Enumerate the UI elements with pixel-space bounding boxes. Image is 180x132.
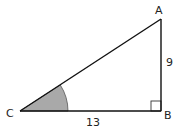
side-ca: [20, 19, 161, 111]
side-label-cb: 13: [86, 116, 100, 129]
vertex-label-c: C: [6, 107, 14, 120]
side-label-ab: 9: [166, 56, 173, 69]
right-angle-marker: [151, 101, 161, 111]
triangle-diagram: A B C 9 13: [0, 0, 180, 132]
vertex-label-a: A: [155, 4, 163, 17]
vertex-label-b: B: [164, 109, 172, 122]
